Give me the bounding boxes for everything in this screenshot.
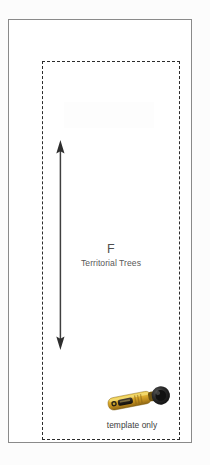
outer-page-border: F Territorial Trees (8, 19, 192, 443)
zone-letter: F (42, 242, 180, 256)
zone-name: Territorial Trees (42, 257, 180, 269)
zone-label-group: F Territorial Trees (42, 242, 180, 269)
diagram-page: F Territorial Trees (0, 0, 210, 465)
rotary-cutter-icon (105, 384, 175, 418)
template-only-caption: template only (89, 420, 175, 431)
